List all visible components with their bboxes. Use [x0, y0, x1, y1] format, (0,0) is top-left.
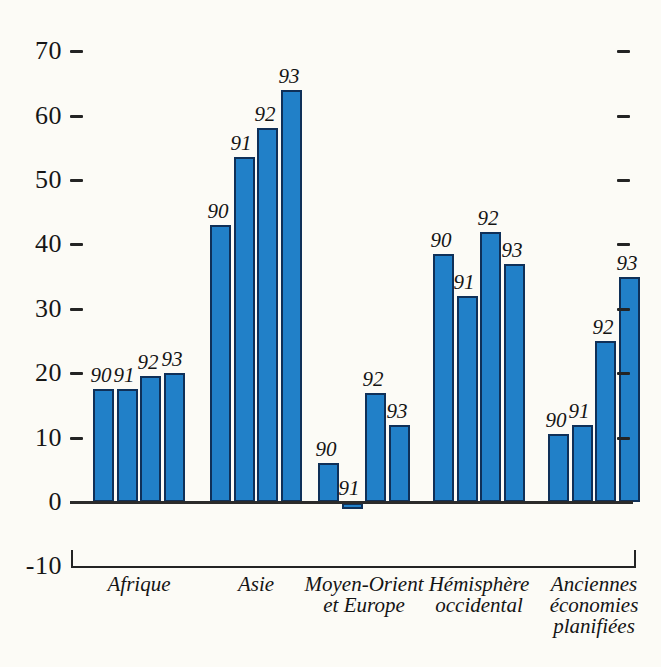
y-axis-label: 20	[10, 359, 62, 387]
bar-year-label: 91	[327, 477, 371, 499]
y-axis-label: 10	[10, 424, 62, 452]
x-axis-bracket-left-stub	[71, 550, 73, 566]
bar-year-label: 93	[490, 239, 534, 261]
bar-anciennes-91	[572, 425, 593, 502]
y-axis-tick-right	[617, 50, 630, 53]
bar-year-label: 93	[267, 65, 311, 87]
y-axis-tick-right	[617, 115, 630, 118]
bar-hémisphère-91	[457, 296, 478, 502]
y-axis-tick-right	[617, 437, 630, 440]
bar-year-label: 90	[304, 438, 348, 460]
y-axis-tick-left	[70, 437, 83, 440]
y-axis-label: 70	[10, 37, 62, 65]
bar-afrique-93	[164, 373, 185, 502]
y-axis-label: 50	[10, 166, 62, 194]
zero-baseline	[70, 501, 633, 504]
y-axis-tick-left	[70, 179, 83, 182]
y-axis-tick-right	[617, 308, 630, 311]
bar-afrique-91	[117, 389, 138, 502]
y-axis-label: 30	[10, 295, 62, 323]
bar-year-label: 93	[150, 348, 194, 370]
y-axis-tick-right	[617, 372, 630, 375]
y-axis-label: -10	[10, 552, 62, 580]
bar-afrique-92	[140, 376, 161, 502]
bar-hémisphère-93	[504, 264, 525, 502]
bar-year-label: 90	[419, 229, 463, 251]
group-label: Ancienneséconomiesplanifiées	[519, 574, 661, 637]
y-axis-tick-right	[617, 179, 630, 182]
bar-year-label: 90	[196, 200, 240, 222]
bar-year-label: 91	[219, 132, 263, 154]
bar-asie-90	[210, 225, 231, 502]
bar-asie-92	[257, 128, 278, 502]
y-axis-label: 40	[10, 230, 62, 258]
y-axis-tick-left	[70, 308, 83, 311]
bar-afrique-90	[93, 389, 114, 502]
bar-chart-figure: 706050403020100-109091929390919293909192…	[0, 0, 661, 667]
bar-year-label: 92	[243, 103, 287, 125]
y-axis-tick-left	[70, 115, 83, 118]
y-axis-tick-left	[70, 243, 83, 246]
bar-year-label: 92	[351, 368, 395, 390]
y-axis-tick-left	[70, 50, 83, 53]
bar-year-label: 92	[466, 207, 510, 229]
x-axis-bracket-right-stub	[634, 550, 636, 566]
x-axis-bracket	[71, 566, 636, 568]
bar-year-label: 93	[605, 252, 649, 274]
bar-moyen-orient-91	[342, 503, 363, 509]
bar-asie-93	[281, 90, 302, 502]
bar-year-label: 91	[557, 400, 601, 422]
bar-anciennes-90	[548, 434, 569, 502]
bar-moyen-orient-93	[389, 425, 410, 502]
bar-year-label: 93	[375, 400, 419, 422]
bar-year-label: 91	[442, 271, 486, 293]
bar-year-label: 92	[581, 316, 625, 338]
y-axis-label: 0	[10, 488, 62, 516]
y-axis-label: 60	[10, 102, 62, 130]
y-axis-tick-right	[617, 243, 630, 246]
